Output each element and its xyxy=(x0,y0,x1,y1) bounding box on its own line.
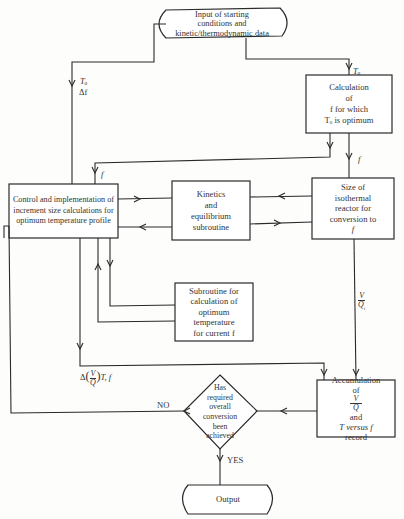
accum-fraction-line: of V Q and xyxy=(350,385,362,422)
kinetics-node: Kinetics and equilibrium subroutine xyxy=(172,181,250,240)
edge-label-f-right: f xyxy=(358,154,360,164)
v-over-q-fraction: V Q xyxy=(350,395,362,412)
decision-node: Has required overall conversion been ach… xyxy=(190,381,250,443)
edge-label-t0-left: Tₒ xyxy=(80,76,87,86)
accum-node: Accumulation of V Q and T versus f recor… xyxy=(317,380,395,437)
edge-label-yes: YES xyxy=(227,455,243,465)
edge-label-v-over-q: V Qi xyxy=(358,292,365,313)
edge-label-delta-vq-t-f: Δ(VQ)T, f xyxy=(80,370,111,387)
edge-label-delta-f: Δf xyxy=(79,87,87,97)
edge-label-f-left: f xyxy=(101,169,103,179)
subroutine-node: Subroutine for calculation of optimum te… xyxy=(175,283,253,341)
control-node: Control and implementation of increment … xyxy=(9,184,118,238)
edge-label-no: NO xyxy=(157,400,169,410)
output-terminal: Output xyxy=(180,485,276,514)
calc-f-node: Calculation of f for which Tₒ is optimum xyxy=(306,75,392,133)
input-terminal: Input of starting conditions and kinetic… xyxy=(152,9,292,39)
size-node: Size of isothermal reactor for conversio… xyxy=(312,178,394,239)
flowchart-diagram: Input of starting conditions and kinetic… xyxy=(0,0,404,519)
edge-label-t0-right: Tₒ xyxy=(353,66,360,76)
